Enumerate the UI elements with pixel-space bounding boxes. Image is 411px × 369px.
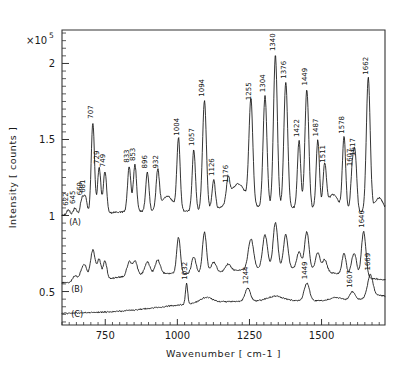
raman-spectra-figure: 7501000125015000.511.52×105Wavenumber [ …: [0, 0, 411, 369]
y-tick-label: 2: [49, 58, 55, 69]
peak-label: 1422: [293, 119, 301, 137]
x-tick-label: 1500: [309, 330, 334, 341]
trace-label-a: (A): [69, 218, 81, 227]
peak-label: 1376: [280, 60, 288, 78]
spectrum-trace-c: [62, 274, 385, 314]
x-axis-label: Wavenumber [ cm-1 ]: [166, 348, 281, 359]
y-axis-multiplier: ×10: [26, 35, 47, 46]
peak-label: 1662: [362, 57, 370, 75]
spectra-plot-canvas: 7501000125015000.511.52×105Wavenumber [ …: [0, 0, 411, 369]
x-tick-label: 1000: [165, 330, 190, 341]
peak-label: 1449: [301, 68, 309, 86]
peak-label: 1578: [338, 116, 346, 134]
peak-label: 1607: [346, 270, 354, 288]
x-tick-label: 1250: [237, 330, 262, 341]
peak-label: 707: [87, 105, 95, 118]
peak-label: 749: [99, 154, 107, 167]
peak-label: 1057: [188, 128, 196, 146]
peak-label: 853: [129, 148, 137, 161]
peak-label: 1487: [312, 119, 320, 137]
peak-label: 1617: [349, 138, 357, 156]
peak-label: 1304: [259, 74, 267, 92]
peak-label: 1340: [269, 33, 277, 51]
peak-label: 1244: [242, 266, 250, 284]
peak-label: 1669: [364, 253, 372, 271]
peak-label: 1449: [301, 261, 309, 279]
peak-label: 681: [79, 179, 87, 192]
peak-label: 896: [141, 155, 149, 169]
peak-label: 932: [152, 155, 160, 168]
spectrum-trace-b: [62, 222, 385, 283]
y-tick-label: 0.5: [39, 287, 55, 298]
peak-label: 1176: [222, 164, 230, 182]
peak-label: 1126: [208, 158, 216, 176]
peak-label: 1255: [245, 82, 253, 100]
trace-label-b: (B): [71, 285, 83, 294]
spectrum-trace-a: [62, 56, 385, 216]
peak-label: 1004: [173, 117, 181, 135]
peak-label: 1094: [198, 78, 206, 96]
x-tick-label: 750: [96, 330, 115, 341]
peak-label: 1646: [358, 209, 366, 227]
trace-label-c: (C): [71, 310, 83, 319]
y-tick-label: 1.5: [39, 134, 55, 145]
y-tick-label: 1: [49, 211, 55, 222]
y-axis-multiplier-exponent: 5: [49, 31, 54, 40]
y-axis-label: Intensity [ counts ]: [7, 127, 18, 229]
peak-label: 1511: [319, 145, 327, 163]
peak-label: 1032: [181, 262, 189, 280]
